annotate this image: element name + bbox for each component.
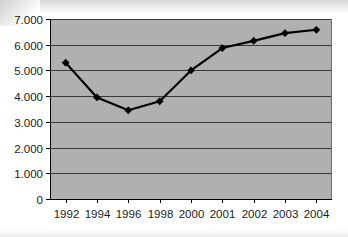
y-axis-tick-label: 1.000	[14, 168, 43, 180]
y-axis-tick-label: 2.000	[14, 143, 43, 155]
line-chart-figure: 7.0006.0005.0004.0003.0002.0001.0000 199…	[0, 0, 348, 237]
x-axis-tick-label: 2001	[210, 208, 236, 220]
x-axis-tick-label: 2002	[242, 208, 268, 220]
x-axis-labels: 199219941996199820002001200220032004	[54, 208, 330, 220]
x-axis-tick-label: 2004	[304, 208, 330, 220]
x-axis-tick-label: 2000	[179, 208, 205, 220]
y-axis-labels: 7.0006.0005.0004.0003.0002.0001.0000	[14, 14, 43, 206]
x-axis-tick-label: 1998	[148, 208, 174, 220]
x-axis-tick-label: 2003	[273, 208, 299, 220]
y-axis-tick-label: 7.000	[14, 14, 43, 26]
y-axis-tick-label: 4.000	[14, 91, 43, 103]
chart-canvas: 7.0006.0005.0004.0003.0002.0001.0000 199…	[0, 0, 348, 237]
y-axis-tick-label: 0	[37, 194, 43, 206]
x-axis-tick-label: 1996	[116, 208, 142, 220]
y-axis-tick-label: 5.000	[14, 65, 43, 77]
y-axis-tick-marks	[46, 20, 50, 200]
x-axis-tick-label: 1992	[54, 208, 80, 220]
y-axis-tick-label: 6.000	[14, 40, 43, 52]
x-axis-tick-label: 1994	[85, 208, 111, 220]
y-axis-tick-label: 3.000	[14, 117, 43, 129]
